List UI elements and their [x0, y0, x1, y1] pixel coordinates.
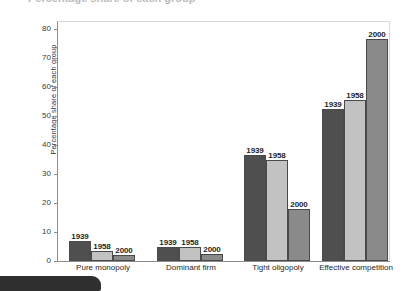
y-axis-tick-label: 50	[42, 111, 51, 120]
bar-group: 193919582000	[157, 29, 225, 261]
x-axis-category-label: Dominant firm	[143, 263, 239, 272]
y-axis-tick-label: 80	[42, 24, 51, 33]
y-axis-tick-label: 40	[42, 140, 51, 149]
bar[interactable]: 2000	[113, 255, 135, 261]
bar-series-label: 1939	[324, 100, 341, 109]
y-axis-tick-label: 70	[42, 53, 51, 62]
bar[interactable]: 2000	[201, 254, 223, 261]
bar-series-label: 1958	[93, 242, 110, 251]
x-axis-category-label: Effective competition	[308, 263, 404, 272]
bar-group: 193919582000	[244, 29, 312, 261]
bar-series-label: 2000	[203, 245, 220, 254]
y-axis-tick-mark	[54, 203, 59, 204]
bar-group: 193919582000	[69, 29, 137, 261]
bar-group: 193919582000	[322, 29, 390, 261]
bar-series-label: 1958	[268, 151, 285, 160]
bar[interactable]: 2000	[288, 209, 310, 261]
bar-series-label: 1939	[159, 238, 176, 247]
bar[interactable]: 2000	[366, 39, 388, 261]
bar-series-label: 2000	[368, 30, 385, 39]
bar[interactable]: 1939	[244, 155, 266, 261]
bar-series-label: 1939	[71, 232, 88, 241]
bar-series-label: 2000	[115, 246, 132, 255]
bar[interactable]: 1939	[69, 241, 91, 261]
y-axis-tick-mark	[54, 87, 59, 88]
bar[interactable]: 1958	[91, 251, 113, 261]
bar-group-bars: 193919582000	[244, 29, 312, 261]
bar-series-label: 2000	[290, 200, 307, 209]
y-axis-tick-mark	[54, 145, 59, 146]
bar[interactable]: 1958	[344, 100, 366, 261]
y-axis-tick-mark	[54, 232, 59, 233]
bar-group-bars: 193919582000	[157, 29, 225, 261]
bar-chart-figure: Percentage share of each group 010203040…	[0, 0, 410, 291]
bar[interactable]: 1958	[266, 160, 288, 262]
y-axis-tick-label: 60	[42, 82, 51, 91]
bar[interactable]: 1939	[322, 109, 344, 261]
bar-group-bars: 193919582000	[322, 29, 390, 261]
bar-group-bars: 193919582000	[69, 29, 137, 261]
bar[interactable]: 1939	[157, 247, 179, 262]
page-decoration-tab	[0, 276, 101, 291]
x-axis-category-label: Pure monopoly	[55, 263, 151, 272]
y-axis-tick-label: 30	[42, 169, 51, 178]
y-axis-tick-label: 10	[42, 227, 51, 236]
bar-series-label: 1939	[246, 146, 263, 155]
y-axis-tick-label: 20	[42, 198, 51, 207]
y-axis-tick-mark	[54, 29, 59, 30]
bar-series-label: 1958	[346, 91, 363, 100]
y-axis-tick-mark	[54, 174, 59, 175]
y-axis-tick-mark	[54, 58, 59, 59]
bar[interactable]: 1958	[179, 247, 201, 262]
y-axis-tick-mark	[54, 116, 59, 117]
y-axis-tick-label: 0	[47, 256, 51, 265]
bar-series-label: 1958	[181, 238, 198, 247]
